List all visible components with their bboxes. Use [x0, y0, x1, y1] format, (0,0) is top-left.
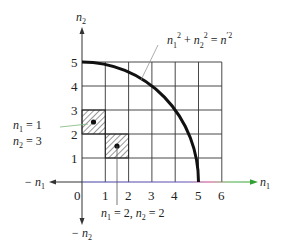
circle-equation-label: n12 + n22 = n′2 — [167, 31, 232, 50]
leader-line-equation — [141, 45, 158, 80]
y-tick-3: 3 — [71, 103, 78, 118]
x-tick-0: 0 — [74, 188, 81, 203]
y-tick-4: 4 — [71, 79, 78, 94]
x-axis — [49, 179, 258, 184]
arrow-up-icon — [80, 27, 85, 34]
svg-text:n1 = 1: n1 = 1 — [13, 118, 42, 134]
y-tick-5: 5 — [71, 55, 78, 70]
svg-text:n2 = 3: n2 = 3 — [13, 134, 42, 150]
arrow-down-icon — [80, 218, 85, 225]
x-tick-6: 6 — [218, 188, 225, 203]
y-tick-1: 1 — [71, 151, 78, 166]
y-axis-label: n2 — [76, 10, 86, 26]
state-label-1-3: n1 = 1 n2 = 3 — [13, 118, 42, 150]
x-tick-5: 5 — [195, 188, 202, 203]
x-tick-1: 1 — [102, 188, 109, 203]
x-tick-4: 4 — [171, 188, 178, 203]
arrow-left-icon — [49, 180, 56, 185]
quantum-state-diagram: 0 1 2 3 4 5 6 1 2 3 4 5 n2 − n2 n1 − n1 … — [0, 0, 282, 242]
x-axis-label: n1 — [260, 175, 270, 191]
x-tick-2: 2 — [125, 188, 132, 203]
y-neg-axis-label: − n2 — [71, 226, 92, 242]
state-label-2-2: n1 = 2, n2 = 2 — [101, 206, 165, 222]
x-neg-axis-label: − n1 — [24, 175, 45, 191]
arrow-right-icon — [250, 179, 258, 184]
x-tick-3: 3 — [148, 188, 155, 203]
y-tick-2: 2 — [71, 127, 78, 142]
state-dot-1-3 — [91, 119, 96, 124]
